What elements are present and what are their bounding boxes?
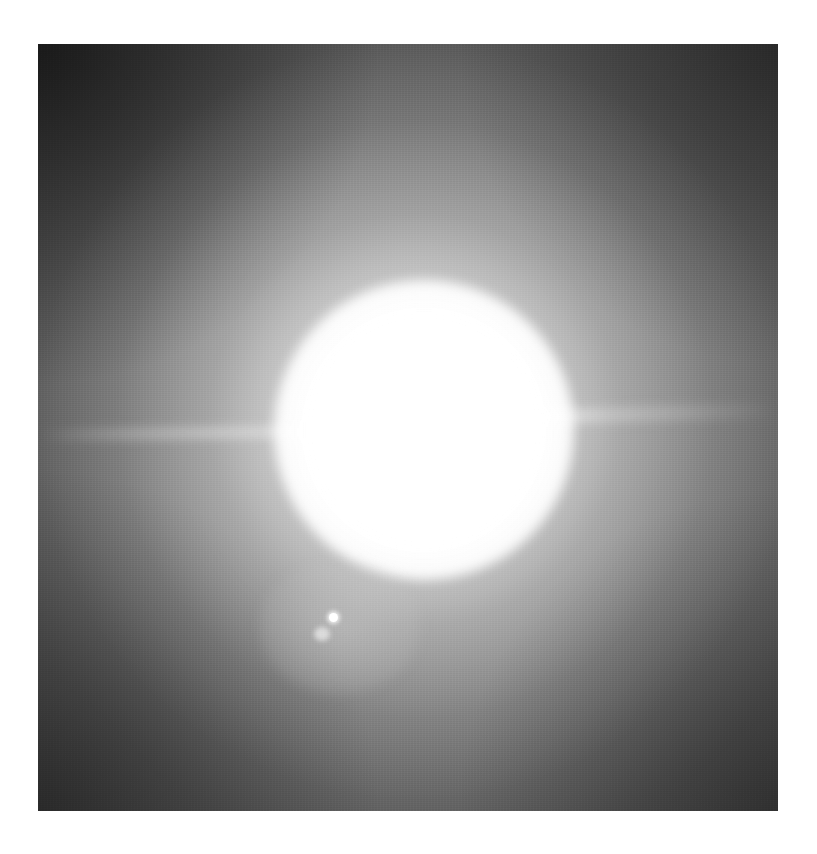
film-grain <box>38 44 778 811</box>
sun-photo <box>38 44 778 811</box>
page <box>0 0 817 854</box>
